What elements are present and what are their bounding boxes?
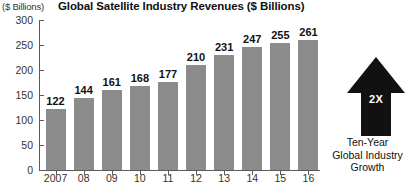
y-tick: [40, 95, 44, 96]
bar: [102, 90, 122, 171]
bar: [158, 82, 178, 171]
bar-value-label: 122: [46, 95, 64, 107]
y-tick: [40, 20, 44, 21]
caption-line-1: Ten-Year: [320, 136, 415, 149]
up-arrow-icon: 2X: [347, 57, 405, 136]
growth-annotation: 2X Ten-Year Global Industry Growth: [320, 0, 415, 191]
bar-value-label: 210: [187, 51, 205, 63]
caption-line-2: Global Industry: [320, 149, 415, 162]
y-tick-label: 100: [2, 114, 33, 126]
x-tick-label: 09: [106, 172, 118, 184]
arrow-head: [347, 57, 405, 93]
x-tick-label: 11: [162, 172, 173, 184]
y-tick-label: 300: [2, 14, 33, 26]
bar: [270, 43, 290, 171]
y-tick-label: 50: [2, 139, 33, 151]
y-tick: [40, 170, 44, 171]
caption-line-3: Growth: [320, 161, 415, 174]
annotation-caption: Ten-Year Global Industry Growth: [320, 136, 415, 174]
y-tick: [40, 45, 44, 46]
bar-value-label: 255: [271, 29, 289, 41]
bar: [74, 98, 94, 170]
bar: [186, 65, 206, 170]
bar: [46, 109, 66, 170]
bar-value-label: 161: [103, 76, 121, 88]
y-tick: [40, 120, 44, 121]
y-tick-label: 200: [2, 64, 33, 76]
bar: [130, 86, 150, 170]
x-tick-label: 16: [303, 172, 315, 184]
bar: [214, 55, 234, 171]
x-tick-label: 08: [78, 172, 90, 184]
y-axis-unit-label: ($ Billions): [2, 1, 44, 12]
x-tick-label: 13: [218, 172, 230, 184]
x-tick-label: 12: [190, 172, 202, 184]
y-tick-label: 0: [2, 164, 33, 176]
x-tick-label: 14: [246, 172, 258, 184]
chart-container: ($ Billions) Global Satellite Industry R…: [0, 0, 415, 191]
bar-value-label: 177: [159, 68, 177, 80]
bar-value-label: 261: [299, 26, 317, 38]
chart-title: Global Satellite Industry Revenues ($ Bi…: [58, 0, 304, 12]
y-tick: [40, 145, 44, 146]
bar-value-label: 168: [131, 72, 149, 84]
x-axis-line: [39, 170, 320, 171]
y-tick: [40, 70, 44, 71]
x-tick-label: 10: [134, 172, 146, 184]
bar: [242, 47, 262, 171]
bar-value-label: 247: [243, 33, 261, 45]
bar-value-label: 231: [215, 41, 233, 53]
arrow-label: 2X: [347, 93, 405, 105]
y-tick-label: 250: [2, 39, 33, 51]
y-tick-label: 150: [2, 89, 33, 101]
x-tick-label: 15: [275, 172, 287, 184]
bar-value-label: 144: [74, 84, 92, 96]
x-tick-label: 2007: [44, 172, 67, 184]
bar: [298, 40, 318, 171]
